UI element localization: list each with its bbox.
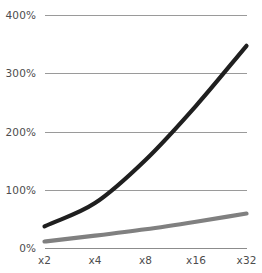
line-chart: 0%100%200%300%400% x2x4x8x16x32 <box>0 0 262 273</box>
x-tick-label-x4: x4 <box>88 254 101 266</box>
x-tick-label-x16: x16 <box>186 254 206 266</box>
y-tick-label-100%: 100% <box>6 184 36 196</box>
y-tick-label-200%: 200% <box>6 126 36 138</box>
x-tick-label-x8: x8 <box>139 254 152 266</box>
y-tick-label-0%: 0% <box>19 242 36 254</box>
x-tick-label-x32: x32 <box>237 254 257 266</box>
y-tick-label-300%: 300% <box>6 67 36 79</box>
x-tick-label-x2: x2 <box>38 254 51 266</box>
y-tick-label-400%: 400% <box>6 9 36 21</box>
chart-container: 0%100%200%300%400% x2x4x8x16x32 <box>0 0 262 273</box>
